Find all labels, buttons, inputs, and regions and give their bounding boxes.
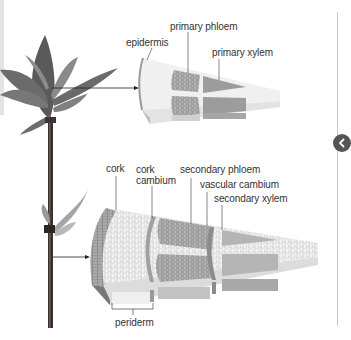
label-secondary-phloem: secondary phloem [180, 165, 260, 175]
label-periderm: periderm [115, 318, 154, 328]
secondary-stem-wedge [91, 208, 318, 305]
periderm-bracket [112, 303, 153, 315]
label-cork: cork [106, 164, 125, 174]
right-divider [337, 12, 338, 326]
label-vascular-cambium: vascular cambium [200, 180, 279, 190]
label-secondary-xylem: secondary xylem [214, 194, 288, 204]
label-primary-xylem: primary xylem [212, 48, 273, 58]
primary-stem-wedge [139, 58, 280, 124]
label-primary-phloem: primary phloem [170, 22, 238, 32]
chevron-left-icon [337, 138, 347, 148]
label-cork-cambium-line2: cambium [136, 176, 176, 186]
previous-button[interactable] [333, 134, 351, 152]
label-epidermis: epidermis [126, 38, 168, 48]
label-cork-cambium-line1: cork [136, 165, 155, 175]
